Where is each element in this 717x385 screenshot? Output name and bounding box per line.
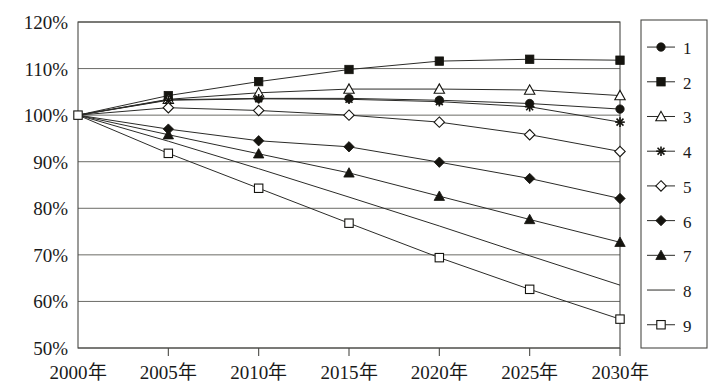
x-axis-tick-labels: 2000年2005年2010年2015年2020年2025年2030年 [50, 362, 649, 383]
x-axis-tick-label: 2020年 [411, 362, 468, 383]
y-axis-tick-label: 120% [24, 12, 69, 33]
series-6-point-marker [615, 193, 625, 203]
y-axis-tick-label: 90% [33, 152, 68, 173]
series-5-point-marker [253, 105, 263, 115]
series-9-point-marker [254, 184, 262, 192]
series-3-point-marker [434, 84, 444, 93]
legend-label-4: 4 [683, 143, 692, 162]
y-axis-tick-label: 100% [24, 105, 69, 126]
series-6-point-marker [253, 136, 263, 146]
y-axis-tick-label: 50% [33, 338, 68, 359]
series-2-point-marker [525, 55, 533, 63]
x-axis-tick-label: 2005年 [140, 362, 197, 383]
series-4-point-marker [435, 97, 445, 107]
series-2-point-marker [345, 65, 353, 73]
legend-label-1: 1 [683, 39, 692, 58]
x-axis-tick-label: 2030年 [592, 362, 649, 383]
series-6-point-marker [524, 173, 534, 183]
legend-label-2: 2 [683, 74, 692, 93]
series-9-point-marker [616, 315, 624, 323]
x-axis-tick-marks [168, 348, 620, 356]
y-axis-tick-label: 60% [33, 291, 68, 312]
series-5-point-marker [524, 130, 534, 140]
series-4-point-marker [344, 95, 354, 105]
data-series-markers [74, 55, 625, 323]
x-axis-tick-label: 2010年 [230, 362, 287, 383]
legend-marker-open-square [657, 321, 665, 329]
legend-label-5: 5 [683, 178, 692, 197]
series-line-6 [78, 115, 620, 198]
series-9-point-marker [525, 285, 533, 293]
line-chart-figure: 120%110%100%90%80%70%60%50% 2000年2005年20… [0, 0, 717, 385]
series-9-point-marker [345, 219, 353, 227]
x-axis-tick-label: 2015年 [321, 362, 378, 383]
series-origin-marker [74, 111, 82, 119]
legend-marker-filled-circle [657, 43, 665, 51]
series-5-point-marker [434, 117, 444, 127]
series-9-point-marker [164, 149, 172, 157]
series-3-point-marker [344, 84, 354, 93]
legend-label-3: 3 [683, 108, 692, 127]
series-2-point-marker [254, 77, 262, 85]
series-5-point-marker [615, 146, 625, 156]
series-6-point-marker [344, 142, 354, 152]
x-axis-tick-label: 2000年 [50, 362, 107, 383]
legend-border [641, 20, 707, 348]
series-line-8 [78, 115, 620, 285]
legend-label-8: 8 [683, 282, 692, 301]
legend-label-6: 6 [683, 213, 692, 232]
legend-marker-filled-square [657, 78, 665, 86]
chart-canvas: 120%110%100%90%80%70%60%50% 2000年2005年20… [0, 0, 717, 385]
legend-label-7: 7 [683, 247, 692, 266]
series-2-point-marker [435, 57, 443, 65]
y-axis-tick-label: 110% [24, 59, 68, 80]
x-axis-tick-label: 2025年 [501, 362, 558, 383]
series-4-point-marker [615, 117, 625, 127]
series-1-point-marker [616, 105, 624, 113]
chart-legend: 123456789 [641, 20, 707, 348]
series-5-point-marker [344, 110, 354, 120]
legend-marker-asterisk [656, 146, 666, 156]
series-4-point-marker [525, 102, 535, 112]
y-axis-tick-label: 80% [33, 198, 68, 219]
y-axis-tick-label: 70% [33, 245, 68, 266]
series-4-point-marker [254, 94, 264, 104]
legend-label-9: 9 [683, 317, 692, 336]
y-axis-tick-labels: 120%110%100%90%80%70%60%50% [24, 12, 69, 359]
series-9-point-marker [435, 253, 443, 261]
series-2-point-marker [616, 56, 624, 64]
series-6-point-marker [434, 157, 444, 167]
